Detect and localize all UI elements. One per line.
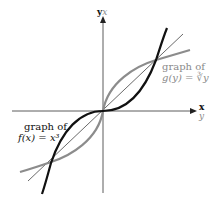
f-label-line1: graph of [18,121,67,132]
f-label-line2: f(x) = x³ [18,132,67,143]
y-axis-label: yx [97,7,107,18]
y-axis-label-secondary: x [102,7,107,17]
x-axis-arrow-icon [190,108,197,114]
x-axis-label-secondary: y [199,111,204,122]
graph-canvas [0,0,216,204]
g-label-line1: graph of [162,61,209,72]
g-label-line2: g(y) = ∛y [162,72,209,83]
g-curve-label: graph of g(y) = ∛y [162,61,209,83]
f-curve-label: graph of f(x) = x³ [18,121,67,143]
